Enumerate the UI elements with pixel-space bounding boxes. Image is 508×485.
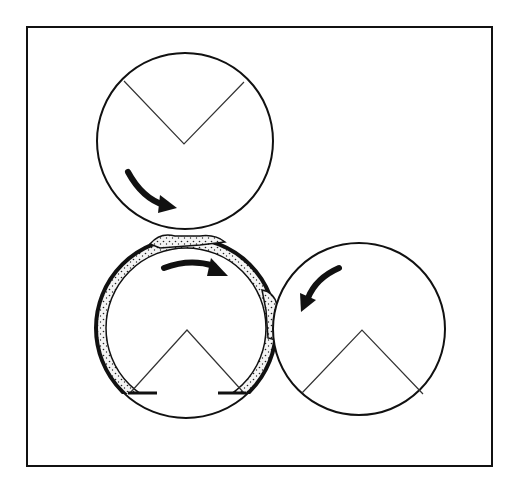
top-roller: [97, 53, 273, 229]
roll-coating-diagram: [0, 0, 508, 485]
right-roller: [273, 243, 445, 415]
